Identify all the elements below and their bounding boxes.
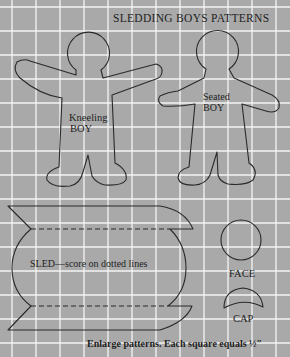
kneeling-boy-label-line2: BOY [70, 123, 93, 134]
kneeling-boy-label-line1: Kneeling [69, 112, 108, 123]
cap-outline [224, 288, 263, 308]
grid [0, 0, 290, 357]
face-pattern: FACE [221, 220, 261, 279]
cap-label: CAP [233, 313, 254, 324]
seated-boy-label-line1: Seated [203, 91, 230, 102]
pattern-drawing: SLEDDING BOYS PATTERNS Kneeling BOY Seat… [0, 0, 290, 357]
sled-label: SLED—score on dotted lines [30, 258, 148, 269]
seated-boy-pattern: Seated BOY [159, 30, 280, 185]
scale-caption: Enlarge patterns. Each square equals ½″ [87, 338, 262, 349]
face-label: FACE [229, 268, 255, 279]
seated-boy-label-line2: BOY [203, 102, 224, 113]
pattern-sheet: SLEDDING BOYS PATTERNS Kneeling BOY Seat… [0, 0, 290, 357]
face-circle [221, 220, 261, 260]
page-title: SLEDDING BOYS PATTERNS [113, 12, 269, 24]
